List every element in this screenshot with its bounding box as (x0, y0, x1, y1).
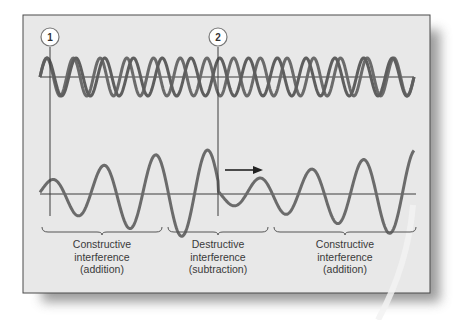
region-label: Destructiveinterference(subtraction) (168, 238, 268, 276)
region-label: Constructiveinterference(addition) (52, 238, 152, 276)
region-label: Constructiveinterference(addition) (295, 238, 395, 276)
marker-number-2: 2 (215, 32, 221, 43)
marker-number-1: 1 (47, 32, 53, 43)
region-label-line1: Constructive (52, 238, 152, 251)
region-label-line1: Constructive (295, 238, 395, 251)
interference-diagram: 12 Constructiveinterference(addition)Des… (0, 0, 463, 320)
region-label-line3: (addition) (295, 263, 395, 276)
region-label-line2: interference (52, 251, 152, 264)
region-label-line3: (subtraction) (168, 263, 268, 276)
region-label-line1: Destructive (168, 238, 268, 251)
region-label-line3: (addition) (52, 263, 152, 276)
region-label-line2: interference (295, 251, 395, 264)
region-label-line2: interference (168, 251, 268, 264)
